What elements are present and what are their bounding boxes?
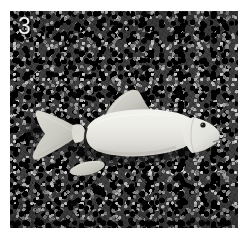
specimen-photograph: 3 [10, 11, 238, 228]
panel-label: 3 [18, 15, 31, 38]
figure-panel: 3 [0, 0, 246, 236]
photo-vignette [10, 11, 238, 228]
